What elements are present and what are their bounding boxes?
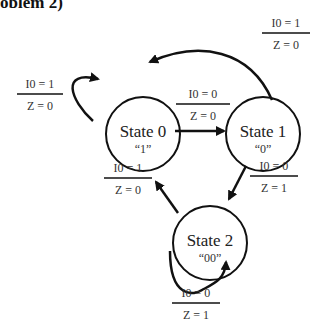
label-s0-to-s1: I0 = 0 Z = 0	[176, 87, 230, 123]
state-0-node: State 0 “1”	[106, 97, 180, 171]
state-diagram: State 0 “1” State 1 “0” State 2 “00” I0 …	[0, 0, 324, 334]
label-s1-to-s0: I0 = 1 Z = 0	[262, 16, 310, 52]
state-1-output: “0”	[255, 142, 272, 156]
label-s1-to-s2: I0 = 0 Z = 1	[250, 159, 298, 195]
label-input: I0 = 1	[114, 161, 143, 175]
arrow-s0-self	[73, 77, 98, 121]
label-s2-self: I0 = 0 Z = 1	[172, 286, 220, 322]
state-0-output: “1”	[135, 142, 152, 156]
state-1-name: State 1	[240, 122, 287, 141]
arrow-s2-to-s0	[156, 182, 178, 213]
label-output: Z = 1	[183, 308, 209, 322]
state-0-name: State 0	[120, 122, 167, 141]
state-2-output: “00”	[199, 251, 222, 265]
label-output: Z = 0	[190, 109, 216, 123]
label-input: I0 = 0	[182, 286, 211, 300]
state-2-node: State 2 “00”	[173, 206, 247, 280]
arrow-s1-to-s2	[229, 166, 246, 199]
state-2-name: State 2	[187, 231, 234, 250]
label-output: Z = 0	[273, 38, 299, 52]
label-input: I0 = 0	[260, 159, 289, 173]
label-input: I0 = 1	[272, 16, 301, 30]
label-output: Z = 0	[27, 99, 53, 113]
label-output: Z = 0	[115, 183, 141, 197]
label-s0-self: I0 = 1 Z = 0	[17, 77, 63, 113]
label-input: I0 = 0	[189, 87, 218, 101]
label-output: Z = 1	[261, 181, 287, 195]
label-input: I0 = 1	[26, 77, 55, 91]
label-s2-to-s0: I0 = 1 Z = 0	[104, 161, 152, 197]
